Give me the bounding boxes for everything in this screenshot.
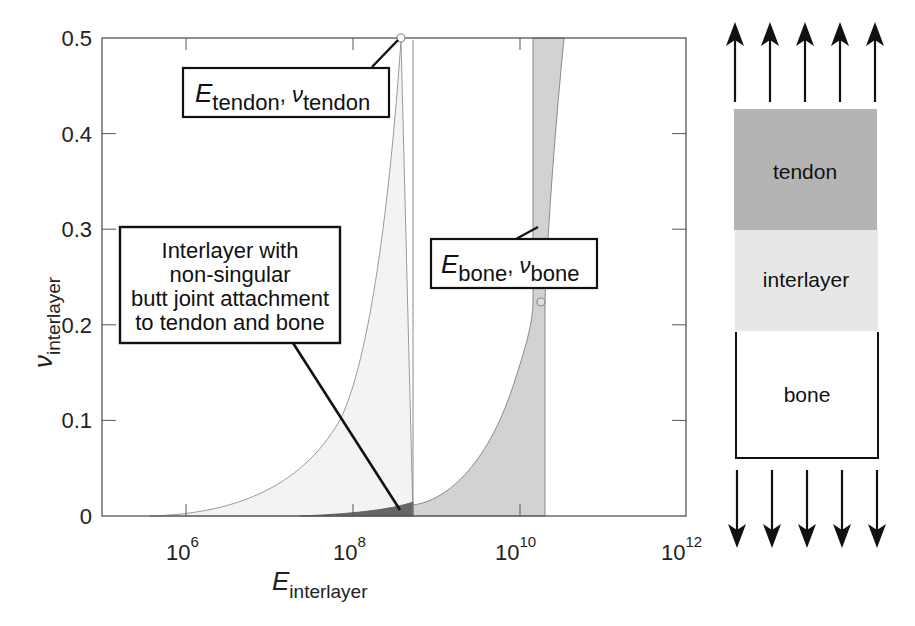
bone-annotation: Ebone, νbone [431, 239, 597, 288]
y-tick-0.1: 0.1 [61, 408, 92, 433]
svg-text:butt joint attachment: butt joint attachment [131, 286, 329, 311]
tendon-layer-label: tendon [773, 160, 837, 183]
tendon-leader-line [372, 40, 398, 67]
x-tick-1e6: 106 [166, 533, 199, 565]
svg-text:νinterlayer: νinterlayer [28, 276, 64, 368]
y-tick-0: 0 [80, 504, 92, 529]
bone-layer-label: bone [784, 383, 831, 406]
layer-diagram: tendon interlayer bone [726, 22, 886, 548]
x-tick-1e10: 1010 [495, 533, 536, 565]
y-axis-title: νinterlayer [28, 276, 64, 368]
y-tick-labels: 0 0.1 0.2 0.3 0.4 0.5 [61, 26, 92, 529]
y-tick-0.2: 0.2 [61, 313, 92, 338]
tendon-annotation: Etendon, νtendon [183, 68, 389, 117]
x-axis-title: Einterlayer [272, 566, 368, 602]
tensile-arrows-bottom [728, 470, 886, 548]
y-tick-0.4: 0.4 [61, 122, 92, 147]
svg-text:to tendon and bone: to tendon and bone [135, 310, 325, 335]
x-tick-labels: 106 108 1010 1012 [166, 533, 702, 565]
svg-text:Interlayer with: Interlayer with [162, 238, 299, 263]
x-tick-1e8: 108 [333, 533, 366, 565]
x-tick-1e12: 1012 [661, 533, 702, 565]
y-tick-0.5: 0.5 [61, 26, 92, 51]
y-tick-0.3: 0.3 [61, 217, 92, 242]
svg-text:non-singular: non-singular [169, 262, 290, 287]
figure: 0 0.1 0.2 0.3 0.4 0.5 106 108 1010 1012 … [0, 0, 915, 626]
interlayer-layer-label: interlayer [763, 268, 849, 291]
interlayer-annotation: Interlayer with non-singular butt joint … [120, 227, 340, 343]
bone-point [537, 298, 545, 306]
tensile-arrows-top [726, 22, 884, 102]
